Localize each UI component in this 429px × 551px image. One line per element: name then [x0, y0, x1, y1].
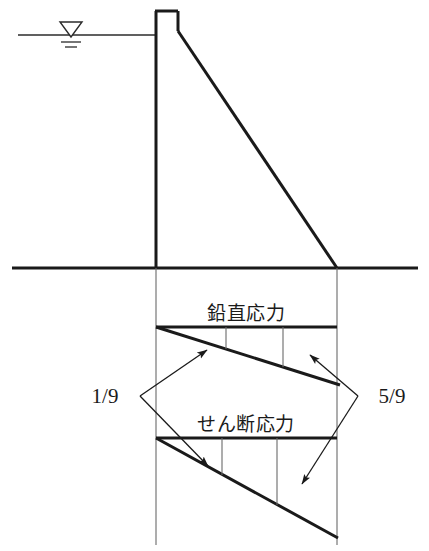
- left-fraction-label: 1/9: [92, 384, 119, 408]
- shear-stress-diagram: [156, 438, 338, 538]
- dam-stress-figure: 鉛直応力 せん断応力 1/9 5/9: [0, 0, 429, 551]
- right-fraction-label: 5/9: [379, 384, 406, 408]
- left-leader-upper-arrow: [140, 350, 207, 396]
- vertical-stress-distribution-line: [156, 327, 340, 385]
- dam-body-group: [155, 11, 337, 268]
- right-leader-upper-arrow: [310, 355, 358, 396]
- shear-stress-label: せん断応力: [197, 414, 295, 435]
- dam-downstream-face: [178, 31, 337, 268]
- vertical-stress-label: 鉛直応力: [207, 303, 285, 324]
- water-surface-group: [18, 22, 156, 47]
- shear-stress-distribution-line: [156, 438, 338, 538]
- vertical-stress-diagram: [156, 327, 340, 385]
- right-leader-lower-arrow: [302, 396, 358, 484]
- figure-canvas: 鉛直応力 せん断応力 1/9 5/9: [0, 0, 429, 551]
